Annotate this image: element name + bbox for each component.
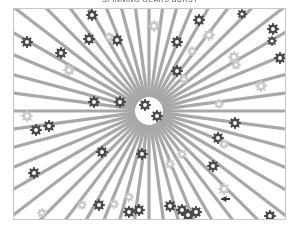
gear-icon[interactable] <box>37 208 47 218</box>
pointer-arrow-icon <box>220 196 230 202</box>
gear-icon[interactable] <box>165 159 175 169</box>
gear-icon[interactable] <box>237 9 247 19</box>
game-canvas[interactable] <box>13 8 286 220</box>
gear-icon[interactable] <box>264 210 276 219</box>
gear-icon[interactable] <box>229 117 241 129</box>
gear-icon[interactable] <box>267 36 277 46</box>
gear-icon[interactable] <box>55 47 67 59</box>
gear-icon[interactable] <box>21 110 33 122</box>
gear-icon[interactable] <box>274 52 285 64</box>
gear-icon[interactable] <box>171 36 183 48</box>
gear-icon[interactable] <box>267 23 279 35</box>
gear-icon[interactable] <box>139 99 151 111</box>
gear-icon[interactable] <box>193 14 205 26</box>
gear-icon[interactable] <box>77 200 87 210</box>
gear-icon[interactable] <box>187 46 197 56</box>
gear-icon[interactable] <box>96 146 108 158</box>
gear-icon[interactable] <box>190 206 202 218</box>
gear-icon[interactable] <box>203 29 215 41</box>
gear-icon[interactable] <box>148 20 160 32</box>
gear-icon[interactable] <box>63 64 75 76</box>
gear-icon[interactable] <box>214 99 224 109</box>
gear-icon[interactable] <box>83 33 95 45</box>
gear-icon[interactable] <box>207 160 219 172</box>
gear-icon[interactable] <box>179 74 189 84</box>
gear-icon[interactable] <box>151 110 163 122</box>
gear-icon[interactable] <box>123 206 135 218</box>
gear-icon[interactable] <box>86 9 98 21</box>
gear-icon[interactable] <box>21 36 33 48</box>
gear-icon[interactable] <box>171 65 183 77</box>
gear-icon[interactable] <box>177 149 187 159</box>
gear-icon[interactable] <box>228 51 240 63</box>
gear-icon[interactable] <box>164 200 176 212</box>
gear-icon[interactable] <box>30 124 42 136</box>
gear-icon[interactable] <box>114 96 126 108</box>
gear-icon[interactable] <box>136 148 148 160</box>
gear-icon[interactable] <box>219 139 229 149</box>
gear-icon[interactable] <box>218 183 230 195</box>
gear-icon[interactable] <box>231 60 241 70</box>
sunburst-rays <box>14 9 285 219</box>
gear-icon[interactable] <box>124 192 134 202</box>
gear-burst-scene <box>14 9 285 219</box>
gear-icon[interactable] <box>104 32 114 42</box>
gear-icon[interactable] <box>133 204 145 216</box>
clipped-title: SPINNING GEARS BURST <box>90 0 210 4</box>
gear-icon[interactable] <box>88 96 100 108</box>
gear-icon[interactable] <box>93 199 105 211</box>
gear-icon[interactable] <box>28 167 40 179</box>
gear-icon[interactable] <box>255 80 267 92</box>
gear-icon[interactable] <box>109 199 119 209</box>
gear-icon[interactable] <box>43 120 55 132</box>
